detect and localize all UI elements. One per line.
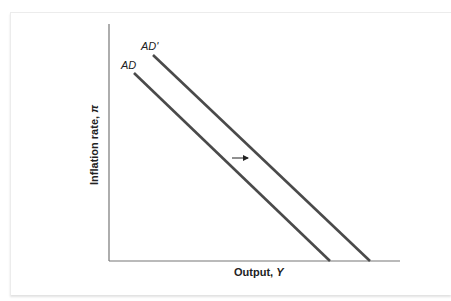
x-axis-label-text: Output, [234,266,276,278]
x-axis-variable: Y [276,266,283,278]
ad-prime-label: AD' [141,40,158,52]
x-axis-label: Output, Y [234,266,284,278]
ad-label: AD [121,59,136,71]
ad-curve [134,73,330,261]
ad-prime-curve [153,55,370,261]
y-axis-variable: π [88,105,100,113]
y-axis-label: Inflation rate, π [88,105,100,185]
y-axis-label-text: Inflation rate, [88,113,100,185]
